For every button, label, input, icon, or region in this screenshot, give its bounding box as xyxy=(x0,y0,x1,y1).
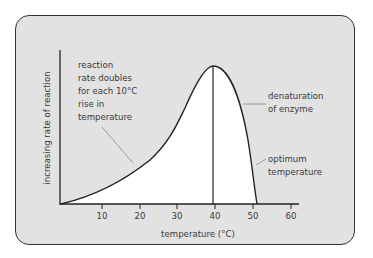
x-tick-label: 20 xyxy=(135,211,146,221)
x-tick-label: 30 xyxy=(172,211,183,221)
x-tick-label: 50 xyxy=(248,211,259,221)
annotation-optimum: optimum temperature xyxy=(256,154,322,177)
x-axis-title: temperature (°C) xyxy=(161,229,235,239)
svg-text:rate doubles: rate doubles xyxy=(78,73,132,83)
x-ticks xyxy=(102,204,291,209)
annotation-denaturation: denaturation of enzyme xyxy=(243,91,324,114)
enzyme-rate-chart: 10 20 30 40 50 60 temperature (°C) incre… xyxy=(0,0,373,258)
x-tick-label: 60 xyxy=(286,211,297,221)
svg-text:temperature: temperature xyxy=(268,167,322,177)
svg-text:optimum: optimum xyxy=(268,154,307,164)
svg-text:denaturation: denaturation xyxy=(268,91,324,101)
x-tick-label: 10 xyxy=(97,211,108,221)
annotation-rise: reaction rate doubles for each 10°C rise… xyxy=(78,60,137,163)
svg-text:temperature: temperature xyxy=(78,112,132,122)
y-axis-title: increasing rate of reaction xyxy=(42,71,52,184)
x-tick-label: 40 xyxy=(210,211,221,221)
svg-text:reaction: reaction xyxy=(78,60,113,70)
svg-text:for each 10°C: for each 10°C xyxy=(78,86,137,96)
svg-text:of enzyme: of enzyme xyxy=(268,104,313,114)
svg-text:rise in: rise in xyxy=(78,99,104,109)
